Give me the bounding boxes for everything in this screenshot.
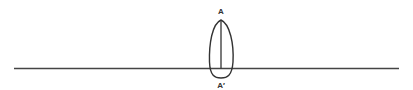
label-a: A bbox=[218, 7, 224, 16]
diagram-canvas: A A′ bbox=[0, 0, 413, 90]
label-a-prime: A′ bbox=[217, 81, 225, 90]
